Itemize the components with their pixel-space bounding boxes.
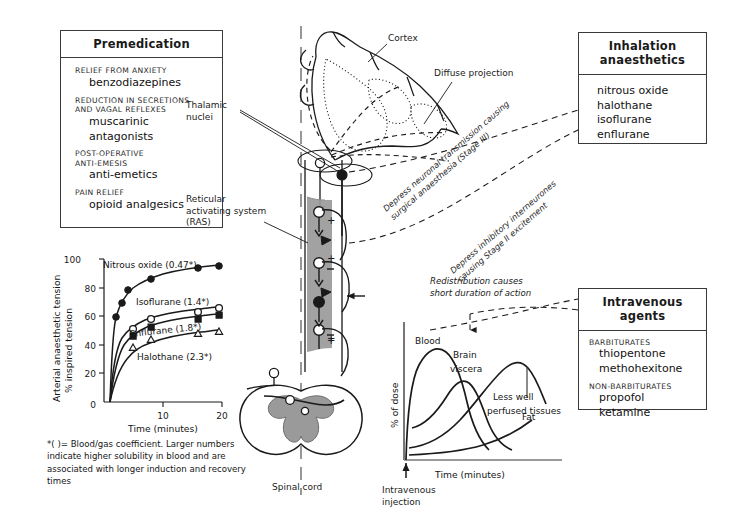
chart-redistribution: % of dose Time (minutes) Blood Brain vis… [389,322,562,480]
iv-drug-propofol: propofol [599,391,698,406]
chart2-ylabel-text: % of dose [389,382,400,428]
intravenous-title: Intravenous agents [579,289,706,331]
chart1-ytick-40: 40 [85,341,97,351]
series-nitrous-oxide-markers [113,263,223,321]
iv-drug-thiopentone: thiopentone [599,347,698,362]
iv-drug-ketamine: ketamine [599,406,698,421]
series-label-enflurane: Enflurane (1.8*) [129,322,202,339]
curve-label-blood: Blood [415,336,440,346]
inhalation-anaesthetics-box: Inhalation anaesthetics nitrous oxide ha… [578,32,707,144]
label-cortex: Cortex [388,33,418,45]
chart1-ytick-0: 0 [90,400,96,410]
inhalation-drug-enflurane: enflurane [597,128,696,143]
label-intravenous-injection: Intravenous injection [382,484,436,508]
iv-heading-non-barbiturates: NON-BARBITURATES [589,382,698,391]
series-label-halothane: Halothane (2.3*) [137,352,212,362]
label-spinal-cord: Spinal cord [272,482,322,494]
intravenous-body: BARBITURATES thiopentone methohexitone N… [579,331,706,427]
premed-drug-anti-emetics: anti-emetics [89,168,212,183]
premed-drug-benzodiazepines: benzodiazepines [89,76,212,91]
chart1-ylabel-line2: % inspired tension [63,308,74,393]
chart2-xlabel: Time (minutes) [434,469,505,480]
svg-text:+: + [327,215,335,226]
chart-uptake-curves: 100 80 60 40 20 0 10 20 Time (minutes) A… [51,255,228,434]
label-diffuse-projection: Diffuse projection [434,68,513,80]
premed-heading-anxiety: RELIEF FROM ANXIETY [75,66,212,75]
chart1-xtick-20: 20 [216,411,228,421]
chart1-xtick-10: 10 [157,411,169,421]
curve-label-viscera: viscera [450,364,482,374]
inhalation-drug-isoflurane: isoflurane [597,113,696,128]
leader-lines [240,44,452,243]
chart1-ytick-60: 60 [85,312,97,322]
curve-label-fat: Fat [522,412,536,422]
label-thalamic-nuclei: Thalamic nuclei [186,100,227,123]
curve-fat [409,420,532,455]
chart1-footnote: *( )= Blood/gas coefficient. Larger numb… [47,438,262,488]
inhalation-drug-halothane: halothane [597,99,696,114]
chart1-ytick-80: 80 [85,284,97,294]
series-label-isoflurane: Isoflurane (1.4*) [136,297,209,307]
intravenous-agents-box: Intravenous agents BARBITURATES thiopent… [578,288,707,410]
inhalation-drug-nitrous-oxide: nitrous oxide [597,84,696,99]
iv-heading-barbiturates: BARBITURATES [589,338,698,347]
premedication-title: Premedication [61,31,222,58]
chart1-ytick-20: 20 [85,369,97,379]
inhalation-title: Inhalation anaesthetics [579,33,706,75]
iv-drug-methohexitone: methohexitone [599,362,698,377]
curve-label-brain: Brain [453,350,477,360]
label-reticular-activating-system: Reticular activating system (RAS) [186,194,266,229]
brainstem-ras-drawing: + + + + [305,160,365,376]
chart1-ytick-100: 100 [64,255,81,265]
series-label-nitrous-oxide: Nitrous oxide (0.47*) [103,260,197,270]
chart1-xlabel: Time (minutes) [127,423,198,434]
premed-drug-antagonists: antagonists [89,130,212,145]
label-redistribution-mechanism: Redistribution causes short duration of … [430,275,531,300]
chart1-ylabel-line1: Arterial anaesthetic tension [51,274,62,402]
anaesthetics-diagram-page: + + + + [0,0,736,525]
premed-heading-antiemesis: POST-OPERATIVE ANTI-EMESIS [75,149,212,168]
svg-text:+: + [327,253,335,264]
inhalation-body: nitrous oxide halothane isoflurane enflu… [579,75,706,151]
